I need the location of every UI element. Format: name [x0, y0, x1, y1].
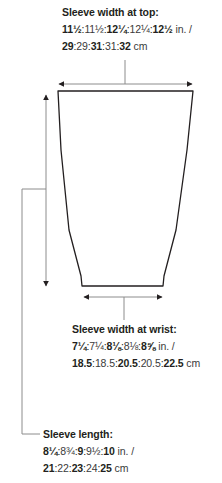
value: 12¼ [130, 23, 150, 35]
sleeve-length-label: Sleeve length: 8¼:8¾:9:9½:10 in. / 21:22… [43, 426, 134, 477]
value: 29 [76, 40, 87, 52]
unit: in. / [115, 445, 134, 457]
unit: cm [184, 357, 201, 369]
value: 20.5 [141, 357, 161, 369]
sleeve-diagram [0, 0, 222, 483]
value: 8⅛ [106, 340, 120, 352]
value: 22 [57, 462, 68, 474]
value: 12¼ [107, 23, 127, 35]
length-leader [22, 189, 46, 434]
value: 29 [62, 40, 73, 52]
value: 23 [72, 462, 83, 474]
value: 8⅝ [141, 340, 155, 352]
value: 11½ [62, 23, 82, 35]
value: 32 [119, 40, 130, 52]
sleeve-top-inches: 11½:11½:12¼:12¼:12½ in. / [62, 21, 192, 38]
unit: cm [131, 40, 148, 52]
value: 18.5 [72, 357, 92, 369]
value: 9½ [86, 445, 100, 457]
sleeve-wrist-title: Sleeve width at wrist: [72, 321, 200, 338]
value: 8⅛ [124, 340, 138, 352]
value: 11½ [84, 23, 103, 35]
value: 31 [105, 40, 116, 52]
sleeve-wrist-cm: 18.5:18.5:20.5:20.5:22.5 cm [72, 355, 200, 372]
value: 24 [86, 462, 97, 474]
unit: cm [112, 462, 129, 474]
value: 12½ [153, 23, 173, 35]
sleeve-length-cm: 21:22:23:24:25 cm [43, 460, 134, 477]
value: 31 [91, 40, 102, 52]
value: 8¼ [43, 445, 57, 457]
unit: in. / [155, 340, 174, 352]
sleeve-top-cm: 29:29:31:31:32 cm [62, 38, 192, 55]
sleeve-length-inches: 8¼:8¾:9:9½:10 in. / [43, 443, 134, 460]
value: 10 [103, 445, 114, 457]
value: 7¼ [72, 340, 86, 352]
sleeve-top-label: Sleeve width at top: 11½:11½:12¼:12¼:12½… [62, 4, 192, 55]
value: 8¾ [60, 445, 74, 457]
sleeve-outline [58, 91, 193, 286]
sleeve-length-title: Sleeve length: [43, 426, 134, 443]
value: 22.5 [164, 357, 184, 369]
unit: in. / [173, 23, 192, 35]
sleeve-top-title: Sleeve width at top: [62, 4, 192, 21]
value: 9 [77, 445, 83, 457]
value: 21 [43, 462, 54, 474]
sleeve-wrist-label: Sleeve width at wrist: 7¼:7¼:8⅛:8⅛:8⅝ in… [72, 321, 200, 372]
value: 18.5 [95, 357, 115, 369]
value: 20.5 [118, 357, 138, 369]
value: 7¼ [89, 340, 103, 352]
value: 25 [100, 462, 111, 474]
sleeve-wrist-inches: 7¼:7¼:8⅛:8⅛:8⅝ in. / [72, 338, 200, 355]
